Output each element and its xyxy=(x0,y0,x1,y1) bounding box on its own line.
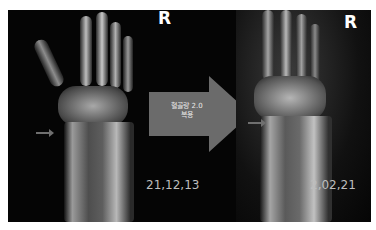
xray-comparison-panel: R 혈골량 2.0 복용 21,12,13 R 2,02,21 xyxy=(8,10,371,222)
forearm-bones xyxy=(64,122,134,222)
thumb-bone xyxy=(32,37,66,88)
xray-left-image: R xyxy=(8,10,143,222)
finger-bone xyxy=(310,24,320,84)
treatment-label: 혈골량 2.0 복용 xyxy=(161,102,213,120)
side-marker-label: R xyxy=(158,10,171,28)
finger-bone xyxy=(80,16,92,86)
finger-bone xyxy=(280,10,292,82)
forearm-bones xyxy=(260,116,332,222)
right-date-label: 2,02,21 xyxy=(310,178,356,192)
carpal-bones xyxy=(254,76,326,120)
treatment-label-line2: 복용 xyxy=(161,111,213,120)
finger-bone xyxy=(96,12,108,86)
treatment-label-line1: 혈골량 2.0 xyxy=(161,102,213,111)
finger-bone xyxy=(296,14,307,82)
side-marker-label: R xyxy=(344,12,357,32)
finger-bone xyxy=(123,36,133,92)
finger-bone xyxy=(262,10,274,80)
fracture-pointer-arrow-icon xyxy=(248,122,262,124)
carpal-bones xyxy=(58,86,128,126)
left-date-label: 21,12,13 xyxy=(146,178,199,192)
finger-bone xyxy=(110,22,121,88)
fracture-pointer-arrow-icon xyxy=(36,132,50,134)
